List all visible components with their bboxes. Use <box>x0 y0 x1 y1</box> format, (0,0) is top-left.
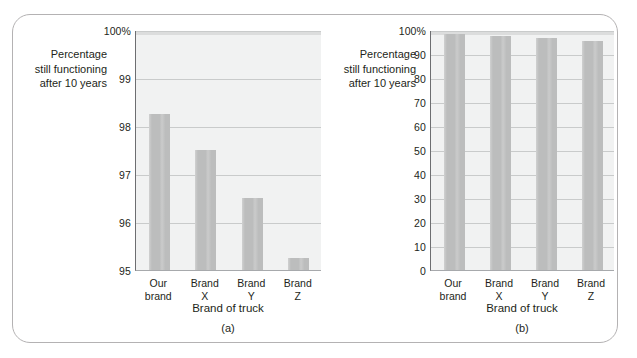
x-tick-label: Our brand <box>440 277 467 302</box>
x-tick-label: Brand Y <box>237 277 265 302</box>
y-tick-label: 96 <box>119 217 131 229</box>
bar <box>288 258 309 270</box>
y-tick-label: 30 <box>414 193 426 205</box>
y-tick-label: 40 <box>414 169 426 181</box>
bar <box>444 34 465 270</box>
plot-area-a <box>135 31 321 271</box>
y-tick-label: 70 <box>414 97 426 109</box>
x-tick-label: Brand Z <box>577 277 605 302</box>
x-tick-label: Brand X <box>191 277 219 302</box>
bar <box>195 150 216 270</box>
panel-caption-b: (b) <box>430 322 614 334</box>
y-axis-ticks-a: 9596979899100% <box>88 31 131 271</box>
y-tick-label: 100% <box>399 25 426 37</box>
bar <box>582 41 603 270</box>
y-tick-label: 10 <box>414 241 426 253</box>
bar <box>149 114 170 270</box>
x-axis-label-b: Brand of truck <box>430 302 614 314</box>
bar <box>242 198 263 270</box>
y-tick-label: 97 <box>119 169 131 181</box>
x-tick-label: Our brand <box>145 277 172 302</box>
chart-panel-b: Percentage still functioning after 10 ye… <box>320 0 637 358</box>
y-tick-label: 0 <box>420 265 426 277</box>
y-tick-label: 98 <box>119 121 131 133</box>
y-tick-label: 100% <box>104 25 131 37</box>
y-tick-label: 90 <box>414 49 426 61</box>
y-tick-label: 99 <box>119 73 131 85</box>
bar <box>490 36 511 270</box>
gridline <box>136 31 321 32</box>
chart-panel-a: Percentage still functioning after 10 ye… <box>0 0 320 358</box>
y-axis-ticks-b: 0102030405060708090100% <box>385 31 426 271</box>
bar <box>536 38 557 270</box>
gridline <box>431 31 614 32</box>
y-tick-label: 20 <box>414 217 426 229</box>
x-axis-label-a: Brand of truck <box>135 302 321 314</box>
x-tick-label: Brand Z <box>284 277 312 302</box>
gridline <box>136 79 321 80</box>
x-tick-label: Brand X <box>485 277 513 302</box>
y-tick-label: 80 <box>414 73 426 85</box>
y-tick-label: 60 <box>414 121 426 133</box>
plot-area-b <box>430 31 614 271</box>
y-tick-label: 95 <box>119 265 131 277</box>
x-tick-label: Brand Y <box>531 277 559 302</box>
y-tick-label: 50 <box>414 145 426 157</box>
panel-caption-a: (a) <box>135 322 321 334</box>
